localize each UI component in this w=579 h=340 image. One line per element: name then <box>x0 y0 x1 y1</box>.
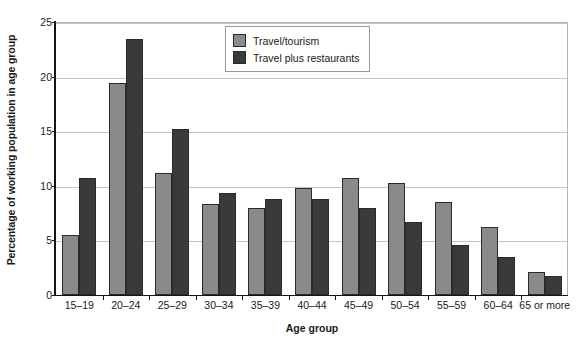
bar-travel-plus-restaurants <box>79 178 96 295</box>
y-axis-tick-label: 20 <box>26 71 52 83</box>
bar-travel-plus-restaurants <box>126 39 143 295</box>
y-axis-tick-label: 10 <box>26 180 52 192</box>
bar-travel-tourism <box>155 173 172 295</box>
bar-group <box>481 23 515 295</box>
bar-travel-plus-restaurants <box>312 199 329 295</box>
bar-travel-plus-restaurants <box>265 199 282 295</box>
bar-group <box>62 23 96 295</box>
y-axis-tick-labels: 0510152025 <box>22 22 52 295</box>
x-axis-tick-label: 65 or more <box>515 300 575 312</box>
bar-travel-plus-restaurants <box>405 222 422 295</box>
bar-travel-tourism <box>342 178 359 295</box>
chart-legend: Travel/tourismTravel plus restaurants <box>225 26 370 72</box>
bar-group <box>155 23 189 295</box>
y-axis-tick-label: 25 <box>26 16 52 28</box>
x-axis-title: Age group <box>56 322 568 334</box>
legend-item: Travel/tourism <box>233 32 359 49</box>
bar-travel-tourism <box>435 202 452 295</box>
bar-travel-tourism <box>202 204 219 295</box>
bar-group <box>435 23 469 295</box>
legend-label: Travel plus restaurants <box>253 52 359 64</box>
bar-travel-tourism <box>109 83 126 295</box>
bar-travel-tourism <box>248 208 265 295</box>
bar-travel-plus-restaurants <box>172 129 189 295</box>
bar-travel-tourism <box>388 183 405 295</box>
bar-travel-tourism <box>295 188 312 295</box>
legend-item: Travel plus restaurants <box>233 49 359 66</box>
bar-travel-plus-restaurants <box>359 208 376 295</box>
bar-travel-plus-restaurants <box>545 276 562 295</box>
legend-swatch-icon <box>233 51 246 64</box>
bar-chart-figure: Percentage of working population in age … <box>0 0 579 340</box>
bar-travel-plus-restaurants <box>452 245 469 295</box>
y-axis-tick-label: 15 <box>26 125 52 137</box>
bar-travel-tourism <box>62 235 79 295</box>
bar-group <box>109 23 143 295</box>
y-axis-title-text: Percentage of working population in age … <box>5 35 17 266</box>
bar-travel-plus-restaurants <box>498 257 515 295</box>
bar-travel-tourism <box>481 227 498 295</box>
y-axis-tick-label: 5 <box>26 234 52 246</box>
y-axis-tick-label: 0 <box>26 289 52 301</box>
legend-label: Travel/tourism <box>253 35 319 47</box>
bar-travel-tourism <box>528 272 545 295</box>
bar-group <box>388 23 422 295</box>
y-axis-title: Percentage of working population in age … <box>0 0 22 300</box>
legend-swatch-icon <box>233 34 246 47</box>
bar-group <box>528 23 562 295</box>
bar-travel-plus-restaurants <box>219 193 236 295</box>
